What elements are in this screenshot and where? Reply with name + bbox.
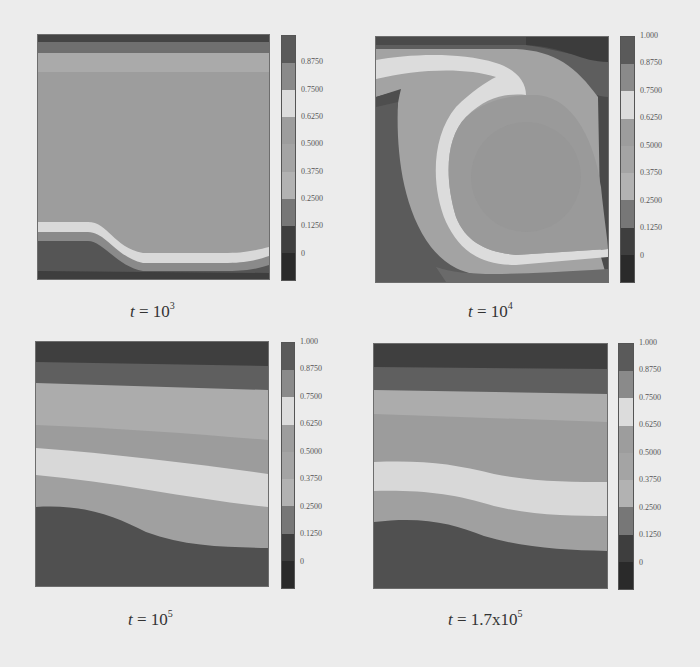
colorbar-tick-label: 0.5000 [300, 448, 322, 456]
caption-base: 10 [153, 302, 170, 321]
colorbar-segment [282, 117, 295, 144]
colorbar-segment [282, 506, 294, 533]
caption-t17e5: t = 1.7x105 [448, 608, 523, 630]
colorbar-segment [282, 226, 295, 253]
caption-eq: = [133, 610, 151, 629]
colorbar-tick-label: 0.5000 [640, 142, 662, 150]
colorbar-segment [619, 453, 633, 480]
colorbar-segment [619, 480, 633, 507]
colorbar-segment [621, 228, 634, 255]
colorbar-tick-label: 0.3750 [639, 476, 661, 484]
band-top-light [38, 52, 269, 72]
contour-svg-t1e3 [38, 35, 269, 279]
caption-eq: = [135, 302, 153, 321]
colorbar-tick-label: 0 [301, 250, 305, 258]
colorbar-segment [282, 479, 294, 506]
colorbar-tick-label: 0.2500 [301, 195, 323, 203]
colorbar-segment [282, 343, 294, 370]
caption-exponent: 3 [170, 300, 175, 311]
colorbar-segment [282, 199, 295, 226]
caption-eq: = [473, 302, 491, 321]
colorbar-segment [282, 144, 295, 171]
colorbar-tick-label: 0.2500 [639, 504, 661, 512]
caption-base: 1.7x10 [471, 610, 518, 629]
colorbar-tick-label: 0 [639, 559, 643, 567]
colorbar-tick-label: 0.8750 [640, 59, 662, 67]
colorbar-tick-label: 0.1250 [640, 224, 662, 232]
band-core [471, 122, 581, 232]
colorbar-t1e3 [281, 35, 296, 281]
colorbar-segment [282, 253, 295, 280]
caption-exponent: 5 [168, 608, 173, 619]
colorbar-tick-label: 0.8750 [300, 365, 322, 373]
colorbar-segment [619, 507, 633, 534]
colorbar-tick-label: 0.5000 [301, 140, 323, 148]
colorbar-segment [619, 371, 633, 398]
colorbar-tick-label: 0.7500 [300, 393, 322, 401]
colorbar-segment [619, 344, 633, 371]
colorbar-tick-label: 0.3750 [300, 475, 322, 483]
colorbar-tick-label: 0.7500 [640, 87, 662, 95]
colorbar-segment [282, 534, 294, 561]
contour-plot-t1e4 [375, 36, 609, 283]
caption-exponent: 4 [508, 300, 513, 311]
colorbar-segment [282, 90, 295, 117]
colorbar-tick-label: 0.1250 [301, 222, 323, 230]
caption-eq: = [453, 610, 471, 629]
contour-svg-t1e5 [36, 342, 268, 586]
colorbar-tick-label: 0 [300, 558, 304, 566]
colorbar-tick-label: 0.3750 [640, 169, 662, 177]
colorbar-segment [282, 36, 295, 63]
colorbar-segment [621, 173, 634, 200]
colorbar-segment [621, 91, 634, 118]
colorbar-segment [282, 63, 295, 90]
colorbar-tick-label: 0.8750 [639, 366, 661, 374]
colorbar-tick-label: 1.000 [300, 338, 318, 346]
colorbar-segment [621, 200, 634, 227]
caption-t1e3: t = 103 [130, 300, 175, 322]
colorbar-segment [621, 37, 634, 64]
caption-t1e5: t = 105 [128, 608, 173, 630]
colorbar-segment [619, 535, 633, 562]
colorbar-segment [619, 562, 633, 589]
colorbar-segment [282, 452, 294, 479]
colorbar-tick-label: 0.1250 [639, 531, 661, 539]
colorbar-segment [621, 146, 634, 173]
caption-base: 10 [491, 302, 508, 321]
colorbar-segment [282, 172, 295, 199]
caption-exponent: 5 [518, 608, 523, 619]
contour-svg-t17e5 [374, 344, 607, 588]
contour-plot-t1e5 [35, 341, 269, 587]
colorbar-tick-label: 0.6250 [300, 420, 322, 428]
colorbar-segment [621, 119, 634, 146]
caption-base: 10 [151, 610, 168, 629]
colorbar-segment [619, 398, 633, 425]
band-top-darkest [38, 35, 269, 42]
contour-svg-t1e4 [376, 37, 608, 282]
colorbar-tick-label: 0.6250 [640, 114, 662, 122]
colorbar-tick-label: 0 [640, 252, 644, 260]
colorbar-tick-label: 0.7500 [301, 86, 323, 94]
colorbar-tick-label: 0.1250 [300, 530, 322, 538]
colorbar-tick-label: 0.7500 [639, 394, 661, 402]
colorbar-tick-label: 0.3750 [301, 168, 323, 176]
colorbar-tick-label: 1.000 [640, 32, 658, 40]
colorbar-t1e5 [281, 342, 295, 589]
colorbar-tick-label: 1.000 [639, 339, 657, 347]
colorbar-segment [621, 255, 634, 282]
colorbar-tick-label: 0.8750 [301, 58, 323, 66]
caption-t1e4: t = 104 [468, 300, 513, 322]
colorbar-tick-label: 0.2500 [300, 503, 322, 511]
colorbar-segment [282, 370, 294, 397]
contour-plot-t17e5 [373, 343, 608, 589]
colorbar-tick-label: 0.5000 [639, 449, 661, 457]
colorbar-segment [282, 397, 294, 424]
colorbar-t1e4 [620, 36, 635, 283]
colorbar-segment [282, 425, 294, 452]
colorbar-tick-label: 0.6250 [301, 113, 323, 121]
colorbar-segment [621, 64, 634, 91]
contour-plot-t1e3 [37, 34, 270, 280]
band-top-mid-dark [38, 41, 269, 53]
colorbar-tick-label: 0.2500 [640, 197, 662, 205]
colorbar-segment [282, 561, 294, 588]
